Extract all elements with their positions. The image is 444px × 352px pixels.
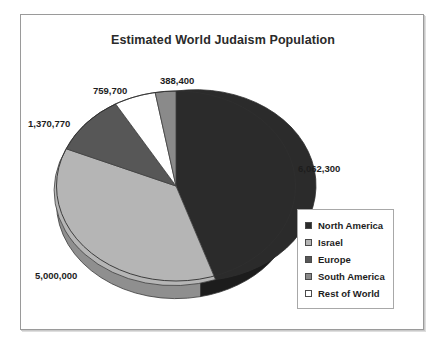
legend-swatch-rest-of-world [305, 290, 312, 297]
legend-label-north-america: North America [318, 220, 383, 231]
data-label-israel: 5,000,000 [35, 270, 77, 281]
legend-swatch-north-america [305, 222, 312, 229]
legend-label-rest-of-world: Rest of World [318, 288, 380, 299]
legend-item-north-america[interactable]: North America [305, 217, 385, 233]
legend-item-europe[interactable]: Europe [305, 251, 385, 267]
legend-item-rest-of-world[interactable]: Rest of World [305, 285, 385, 301]
legend-swatch-europe [305, 256, 312, 263]
data-label-europe: 1,370,770 [28, 118, 70, 129]
legend-swatch-israel [305, 239, 312, 246]
legend-item-south-america[interactable]: South America [305, 268, 385, 284]
legend-label-south-america: South America [318, 271, 385, 282]
chart-frame: Estimated World Judaism Population [20, 14, 424, 330]
chart-legend: North America Israel Europe South Americ… [297, 209, 394, 309]
legend-label-europe: Europe [318, 254, 351, 265]
pie-top-face [54, 90, 316, 286]
data-label-north-america: 6,062,300 [298, 163, 340, 174]
legend-swatch-south-america [305, 273, 312, 280]
legend-label-israel: Israel [318, 237, 343, 248]
legend-item-israel[interactable]: Israel [305, 234, 385, 250]
data-label-south-america: 759,700 [93, 85, 127, 96]
data-label-rest-of-world: 388,400 [160, 75, 194, 86]
